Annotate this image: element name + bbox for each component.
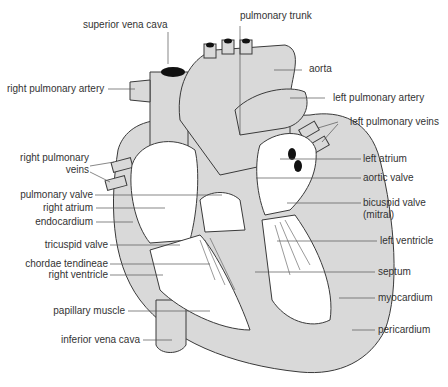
label-pulmonary-trunk: pulmonary trunk: [240, 10, 312, 22]
inferior-vena-cava-shape: [156, 300, 186, 353]
label-pericardium: pericardium: [378, 324, 430, 336]
label-inferior-vena-cava: inferior vena cava: [20, 334, 140, 346]
label-right-ventricle: right ventricle: [5, 269, 108, 281]
label-bicuspid-valve-line2: (mitral): [363, 209, 394, 221]
label-right-atrium: right atrium: [10, 202, 93, 214]
label-left-ventricle: left ventricle: [380, 235, 433, 247]
label-left-atrium: left atrium: [363, 153, 407, 165]
label-left-pulmonary-artery: left pulmonary artery: [333, 92, 424, 104]
heart-diagram: superior vena cava pulmonary trunk aorta…: [0, 0, 448, 387]
right-atrium-chamber: [131, 142, 198, 243]
label-right-pulmonary-veins-line1: right pulmonary: [16, 152, 89, 164]
label-pulmonary-valve: pulmonary valve: [10, 189, 93, 201]
valve-region: [200, 193, 245, 233]
label-septum: septum: [378, 266, 411, 278]
label-superior-vena-cava: superior vena cava: [83, 19, 168, 31]
label-papillary-muscle: papillary muscle: [20, 305, 125, 317]
label-right-pulmonary-veins-line2: veins: [16, 164, 89, 176]
label-myocardium: myocardium: [378, 292, 432, 304]
right-pulmonary-artery-shape: [130, 80, 150, 102]
label-right-pulmonary-artery: right pulmonary artery: [7, 83, 104, 95]
label-aortic-valve: aortic valve: [363, 172, 414, 184]
label-aorta: aorta: [309, 63, 332, 75]
label-endocardium: endocardium: [10, 216, 93, 228]
label-left-pulmonary-veins: left pulmonary veins: [350, 116, 439, 128]
label-bicuspid-valve-line1: bicuspid valve: [363, 197, 426, 209]
label-tricuspid-valve: tricuspid valve: [10, 239, 108, 251]
